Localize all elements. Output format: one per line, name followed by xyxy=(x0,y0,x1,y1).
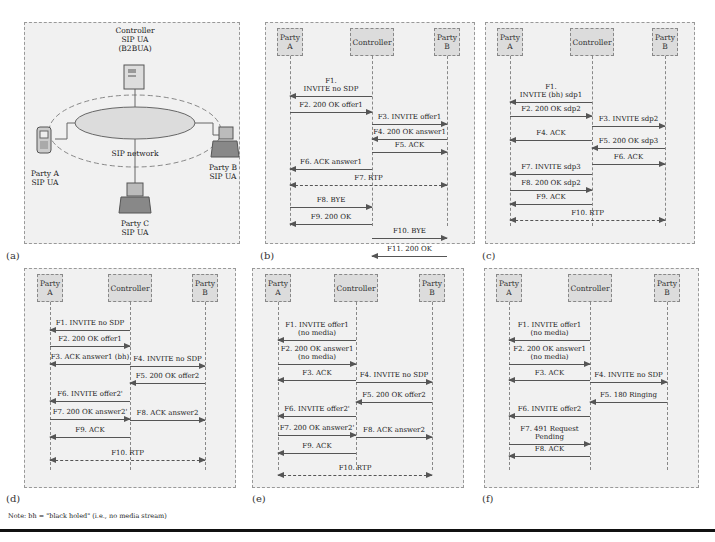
message-label: F9. ACK xyxy=(50,426,130,434)
message-arrow xyxy=(509,456,590,457)
lifeline-b xyxy=(667,302,668,470)
message-arrow xyxy=(510,204,592,205)
message-arrow xyxy=(509,340,590,341)
message-arrow xyxy=(510,174,592,175)
message-label: F6. INVITE offer2' xyxy=(278,405,356,413)
message-arrow xyxy=(509,364,590,365)
message-arrow xyxy=(50,330,130,331)
message-arrow xyxy=(510,190,592,191)
party-a-actor: PartyA xyxy=(496,274,522,302)
actor-text: PartyB xyxy=(195,279,215,297)
message-label: F4. 200 OK answer1 xyxy=(372,128,447,136)
actor-text: PartyA xyxy=(500,33,520,51)
arrowhead-right-icon xyxy=(426,434,433,440)
panel-a-label: (a) xyxy=(6,250,20,261)
message-label: F3. ACK answer1 (bh) xyxy=(50,353,130,361)
message-arrow xyxy=(592,164,665,165)
controller-actor: Controller xyxy=(570,28,614,56)
message-arrow xyxy=(290,169,372,170)
message-arrow xyxy=(50,364,130,365)
arrowhead-left-icon xyxy=(49,434,56,440)
message-label: F7. INVITE sdp3 xyxy=(510,163,592,171)
arrowhead-left-icon xyxy=(509,217,516,223)
party-b-actor: PartyB xyxy=(652,28,678,56)
message-label: F2. 200 OK answer1(no media) xyxy=(509,345,590,361)
arrowhead-left-icon xyxy=(591,145,598,151)
actor-text: PartyB xyxy=(422,279,442,297)
message-label: F8. 200 OK sdp2 xyxy=(510,179,592,187)
party-b-actor: PartyB xyxy=(654,274,680,302)
network-diagram xyxy=(25,23,241,245)
party-a-actor: PartyA xyxy=(265,274,291,302)
message-arrow xyxy=(356,382,432,383)
bottom-rule xyxy=(0,529,715,532)
arrowhead-right-icon xyxy=(659,217,666,223)
actor-text: PartyB xyxy=(657,279,677,297)
arrowhead-left-icon xyxy=(509,201,516,207)
lifeline-b xyxy=(205,302,206,470)
arrowhead-right-icon xyxy=(199,417,206,423)
server-icon xyxy=(124,65,144,89)
arrowhead-left-icon xyxy=(277,472,284,478)
arrowhead-left-icon xyxy=(508,453,515,459)
party-a-actor: PartyA xyxy=(37,274,63,302)
arrowhead-left-icon xyxy=(509,137,516,143)
sip-network-label: SIP network xyxy=(95,149,175,158)
message-arrow xyxy=(130,366,205,367)
message-label: F7. RTP xyxy=(290,174,447,182)
arrowhead-right-icon xyxy=(661,379,668,385)
message-label: F6. ACK xyxy=(592,153,665,161)
message-label: F5. 200 OK offer2 xyxy=(130,372,205,380)
message-label: F8. ACK answer2 xyxy=(130,409,205,417)
arrowhead-left-icon xyxy=(289,166,296,172)
arrowhead-left-icon xyxy=(371,253,378,259)
party-b-actor: PartyB xyxy=(434,28,460,56)
arrowhead-right-icon xyxy=(659,161,666,167)
controller-actor: Controller xyxy=(334,274,378,302)
desk-phone-icon-b xyxy=(211,127,239,157)
message-label: F9. 200 OK xyxy=(290,213,372,221)
message-label: F5. 180 Ringing xyxy=(590,391,667,399)
arrowhead-right-icon xyxy=(426,472,433,478)
message-arrow xyxy=(278,416,356,417)
actor-text: PartyB xyxy=(655,33,675,51)
message-label: F2. 200 OK offer1 xyxy=(50,335,130,343)
message-label: F10. RTP xyxy=(50,449,205,457)
message-arrow xyxy=(372,238,447,239)
party-c-label: Party CSIP UA xyxy=(111,219,159,237)
message-arrow xyxy=(50,437,130,438)
message-arrow xyxy=(290,224,372,225)
arrowhead-left-icon xyxy=(277,413,284,419)
arrowhead-right-icon xyxy=(124,343,131,349)
message-label: F1. INVITE offer1(no media) xyxy=(278,321,356,337)
message-arrow xyxy=(50,419,130,420)
lifeline-c xyxy=(356,302,357,470)
message-label: F1. INVITE no SDP xyxy=(50,319,130,327)
arrowhead-left-icon xyxy=(49,361,56,367)
message-arrow xyxy=(590,402,667,403)
message-label: F9. ACK xyxy=(510,193,592,201)
controller-actor: Controller xyxy=(568,274,612,302)
arrowhead-right-icon xyxy=(584,361,591,367)
party-a-actor: PartyA xyxy=(277,28,303,56)
arrowhead-left-icon xyxy=(49,327,56,333)
actor-text: PartyA xyxy=(40,279,60,297)
message-arrow xyxy=(372,152,447,153)
arrowhead-left-icon xyxy=(355,399,362,405)
message-arrow xyxy=(510,102,592,103)
message-label: F4. INVITE no SDP xyxy=(130,355,205,363)
message-label: F7. 200 OK answer2' xyxy=(278,424,356,432)
arrowhead-left-icon xyxy=(49,398,56,404)
message-label: F1.INVITE (bh) sdp1 xyxy=(510,83,592,99)
arrowhead-left-icon xyxy=(129,380,136,386)
panel-c-label: (c) xyxy=(482,250,495,261)
arrowhead-left-icon xyxy=(277,377,284,383)
message-arrow xyxy=(50,346,130,347)
message-label: F7. 200 OK answer2' xyxy=(50,408,130,416)
message-arrow xyxy=(372,124,447,125)
lifeline-b xyxy=(432,302,433,470)
message-arrow xyxy=(130,420,205,421)
panel-e-label: (e) xyxy=(252,493,266,504)
message-label: F10. RTP xyxy=(278,464,432,472)
message-label: F5. ACK xyxy=(372,141,447,149)
